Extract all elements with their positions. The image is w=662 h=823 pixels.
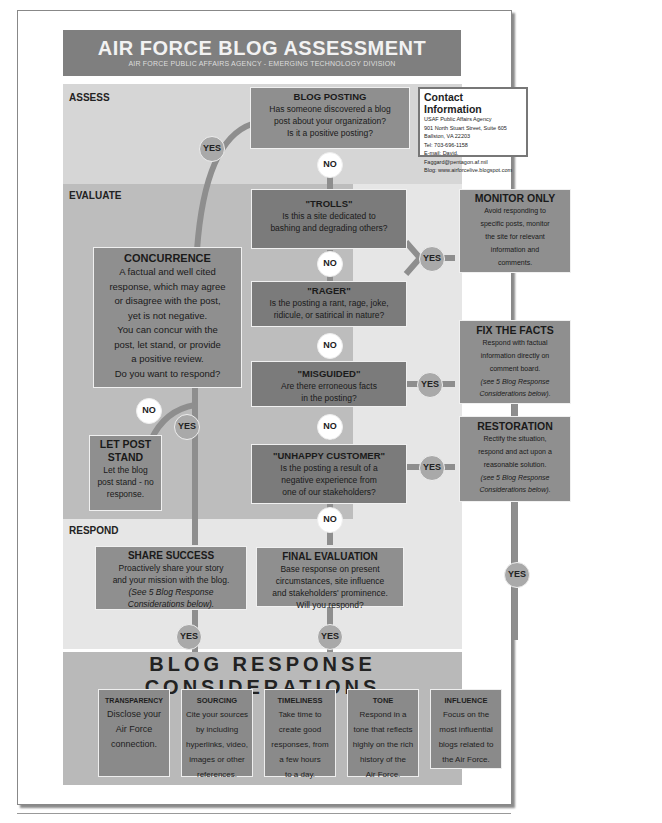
node-fix-the-facts: FIX THE FACTS Respond with factual infor…: [459, 320, 571, 404]
consideration-timeliness: TIMELINESS Take time to create good resp…: [264, 689, 336, 777]
consideration-sourcing: SOURCING Cite your sources by including …: [181, 689, 253, 777]
connector-no-final: NO: [317, 507, 343, 533]
node-blog-posting: BLOG POSTING Has someone discovered a bl…: [250, 87, 410, 149]
connector-yes-restoration-down: YES: [504, 562, 530, 588]
connector-yes-fix-facts: YES: [417, 372, 443, 398]
node-restoration: RESTORATION Rectify the situation, respo…: [459, 416, 571, 502]
node-let-post-stand: LET POST STAND Let the blog post stand -…: [89, 435, 162, 511]
node-rager: "RAGER" Is the posting a rant, rage, jok…: [251, 281, 407, 327]
node-misguided: "MISGUIDED" Are there erroneous facts in…: [251, 361, 407, 407]
node-share-success: SHARE SUCCESS Proactively share your sto…: [95, 546, 247, 610]
node-concurrence: CONCURRENCE A factual and well cited res…: [93, 247, 242, 388]
node-monitor-only: MONITOR ONLY Avoid responding to specifi…: [459, 189, 571, 273]
connector-no-let-stand: NO: [136, 398, 162, 424]
consideration-influence: INFLUENCE Focus on the most influential …: [430, 689, 502, 769]
consideration-transparency: TRANSPARENCY Disclose your Air Force con…: [98, 689, 170, 777]
contact-email: E-mail: David. Faggard@pentagon.af.mil: [424, 149, 522, 166]
connector-no-unhappy: NO: [317, 414, 343, 440]
consideration-tone: TONE Respond in a tone that reflects hig…: [347, 689, 419, 777]
connector-yes-restoration: YES: [419, 455, 445, 481]
connector-yes-share-down: YES: [176, 624, 202, 650]
node-trolls: "TROLLS" Is this a site dedicated to bas…: [251, 189, 407, 249]
node-final-evaluation: FINAL EVALUATION Base response on presen…: [256, 547, 404, 607]
connector-yes-final-down: YES: [317, 624, 343, 650]
node-unhappy-customer: "UNHAPPY CUSTOMER" Is the posting a resu…: [251, 444, 407, 504]
connector-yes-monitor: YES: [419, 246, 445, 272]
connector-yes-share: YES: [174, 414, 200, 440]
connector-no-rager: NO: [317, 251, 343, 277]
contact-heading: Contact Information: [424, 91, 522, 115]
connector-no-trolls: NO: [317, 152, 343, 178]
connector-no-misguided: NO: [317, 333, 343, 359]
contact-information: Contact Information USAF Public Affairs …: [418, 87, 528, 157]
connector-yes-concurrence: YES: [199, 136, 225, 162]
contact-blog: Blog: www.airforcelive.blogspot.com: [424, 166, 522, 175]
